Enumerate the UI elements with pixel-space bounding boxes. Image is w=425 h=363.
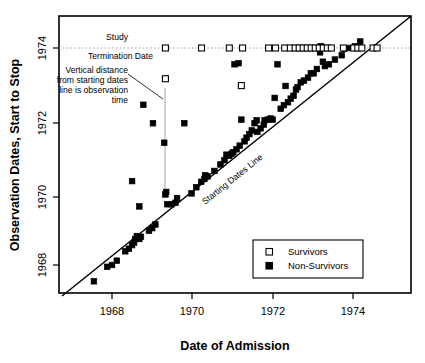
legend: Survivors Non-Survivors xyxy=(253,240,363,278)
data-point-non-survivor xyxy=(161,140,167,146)
legend-marker-non-survivors xyxy=(266,263,273,270)
annotation-study: Study xyxy=(106,32,129,42)
data-point-non-survivor xyxy=(189,191,195,197)
data-point-survivor xyxy=(374,45,380,51)
data-point-survivor xyxy=(226,45,232,51)
y-axis-title: Observation Dates, Start to Stop xyxy=(8,58,22,251)
data-point-non-survivor xyxy=(150,120,156,126)
data-point-survivor xyxy=(272,45,278,51)
data-point-non-survivor xyxy=(141,102,147,108)
data-point-non-survivor xyxy=(357,39,363,45)
y-tick-label-1968: 1968 xyxy=(36,253,48,277)
data-point-non-survivor xyxy=(236,60,242,66)
y-tick-label-1974: 1974 xyxy=(36,36,48,60)
data-point-non-survivor xyxy=(138,234,144,240)
data-point-non-survivor xyxy=(182,120,188,126)
data-point-non-survivor xyxy=(91,278,97,284)
data-point-non-survivor xyxy=(291,93,297,99)
legend-label-survivors: Survivors xyxy=(288,246,328,257)
scatter-plot: 1968 1970 1972 1974 1974 1972 1970 1968 … xyxy=(0,0,425,363)
annotation-vertical-distance-2: from starting dates xyxy=(57,75,128,85)
data-point-non-survivor xyxy=(137,204,143,210)
legend-label-non-survivors: Non-Survivors xyxy=(288,260,348,271)
data-point-non-survivor xyxy=(254,118,260,124)
data-point-non-survivor xyxy=(275,61,281,67)
data-point-non-survivor xyxy=(249,128,255,134)
data-point-non-survivor xyxy=(272,95,278,101)
data-point-survivor xyxy=(240,45,246,51)
data-point-survivor xyxy=(162,45,168,51)
annotation-vertical-distance-1: Vertical distance xyxy=(65,65,128,75)
data-point-survivor xyxy=(340,45,346,51)
legend-marker-survivors xyxy=(266,249,273,256)
chart-figure: 1968 1970 1972 1974 1974 1972 1970 1968 … xyxy=(0,0,425,363)
data-point-survivor xyxy=(199,45,205,51)
data-point-non-survivor xyxy=(270,117,276,123)
x-axis-title: Date of Admission xyxy=(180,339,289,353)
data-point-survivor xyxy=(328,45,334,51)
data-point-survivor xyxy=(359,45,365,51)
x-tick-label-1972: 1972 xyxy=(261,305,285,317)
data-point-survivor xyxy=(238,83,244,89)
data-point-non-survivor xyxy=(205,174,211,180)
x-tick-label-1974: 1974 xyxy=(341,305,365,317)
data-point-non-survivor xyxy=(163,189,169,195)
annotation-termination-date: Termination Date xyxy=(88,51,153,61)
data-point-non-survivor xyxy=(339,52,345,58)
data-point-non-survivor xyxy=(283,83,289,89)
y-tick-label-1972: 1972 xyxy=(36,111,48,135)
data-point-non-survivor xyxy=(239,117,245,123)
data-point-non-survivor xyxy=(114,258,120,264)
annotation-vertical-distance-4: time xyxy=(112,95,128,105)
x-tick-label-1968: 1968 xyxy=(100,305,124,317)
data-point-non-survivor xyxy=(332,57,338,63)
data-point-non-survivor xyxy=(212,168,218,174)
data-point-non-survivor xyxy=(194,184,200,190)
data-point-non-survivor xyxy=(129,178,135,184)
data-point-survivor xyxy=(266,45,272,51)
data-point-non-survivor xyxy=(174,195,180,201)
data-point-non-survivor xyxy=(153,222,159,228)
data-point-survivor xyxy=(162,76,168,82)
annotation-vertical-distance-3: line is observation xyxy=(59,85,128,95)
y-tick-label-1970: 1970 xyxy=(36,185,48,209)
data-point-non-survivor xyxy=(314,66,320,72)
data-point-non-survivor xyxy=(326,61,332,67)
x-tick-label-1970: 1970 xyxy=(180,305,204,317)
